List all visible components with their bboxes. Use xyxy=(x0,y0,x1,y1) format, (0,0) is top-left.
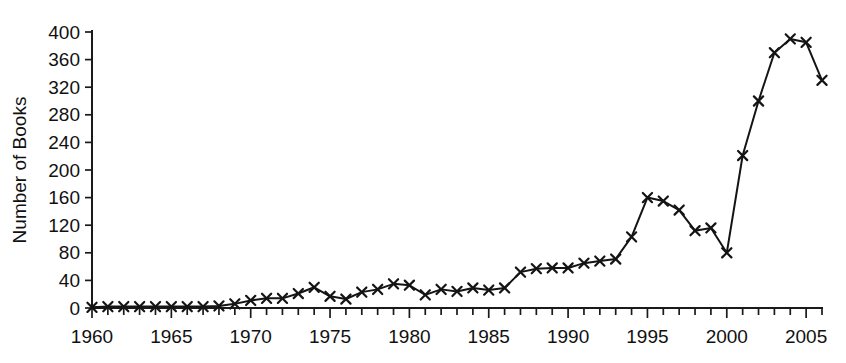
y-axis-tick-label: 280 xyxy=(48,104,80,125)
chart-container: 04080120160200240280320360400 1960196519… xyxy=(0,0,846,363)
x-axis-tick-label: 1960 xyxy=(71,326,113,347)
y-axis-tick-label: 40 xyxy=(59,270,80,291)
x-axis-tick-label: 1970 xyxy=(230,326,272,347)
y-axis: 04080120160200240280320360400 xyxy=(48,22,92,319)
x-axis-tick-label: 1975 xyxy=(309,326,351,347)
data-point-marker xyxy=(817,76,826,85)
y-axis-tick-label: 120 xyxy=(48,215,80,236)
x-axis-tick-label: 1995 xyxy=(626,326,668,347)
y-axis-tick-label: 400 xyxy=(48,22,80,43)
axis-titles: Number of Books xyxy=(9,97,30,244)
y-axis-tick-label: 80 xyxy=(59,242,80,263)
data-point-marker xyxy=(627,232,636,241)
y-axis-tick-label: 0 xyxy=(69,298,80,319)
x-axis-tick-label: 2005 xyxy=(785,326,827,347)
data-point-marker xyxy=(770,48,779,57)
y-axis-tick-label: 240 xyxy=(48,132,80,153)
data-point-marker xyxy=(675,205,684,214)
data-point-marker xyxy=(310,283,319,292)
x-axis-tick-label: 2000 xyxy=(706,326,748,347)
y-axis-tick-label: 200 xyxy=(48,160,80,181)
data-point-marker xyxy=(421,290,430,299)
x-axis-tick-label: 1965 xyxy=(150,326,192,347)
line-chart: 04080120160200240280320360400 1960196519… xyxy=(0,0,846,363)
y-axis-title: Number of Books xyxy=(9,97,30,244)
data-series-number-of-books xyxy=(87,34,826,312)
y-axis-tick-label: 320 xyxy=(48,77,80,98)
y-axis-tick-label: 160 xyxy=(48,187,80,208)
y-axis-tick-label: 360 xyxy=(48,49,80,70)
x-axis-tick-label: 1980 xyxy=(388,326,430,347)
x-axis-tick-label: 1990 xyxy=(547,326,589,347)
x-axis: 1960196519701975198019851990199520002005 xyxy=(71,308,827,347)
x-axis-tick-label: 1985 xyxy=(468,326,510,347)
series-polyline xyxy=(92,39,822,307)
